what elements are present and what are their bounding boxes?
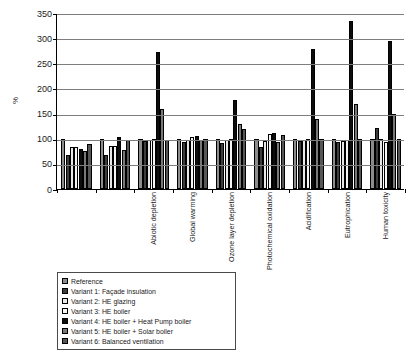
y-tick-label: 150 [22, 110, 52, 119]
bar [87, 144, 91, 189]
gridline [57, 64, 404, 65]
y-tick-label: 200 [22, 85, 52, 94]
legend-swatch-icon [62, 338, 68, 344]
legend-item[interactable]: Variant 5: HE boiler + Solar boiler [62, 326, 231, 336]
legend-swatch-icon [62, 308, 68, 314]
legend-item[interactable]: Variant 6: Balanced ventilation [62, 336, 231, 346]
bar-chart-figure: % 050100150200250300350 Abiotic depletio… [0, 0, 412, 354]
x-category-label: Photochemical oxidation [266, 192, 274, 270]
x-category-label: Acidification [305, 192, 313, 270]
x-tick-mark [405, 189, 406, 193]
legend-swatch-icon [62, 288, 68, 294]
y-axis-tick-labels: 050100150200250300350 [20, 0, 52, 190]
gridline [57, 165, 404, 166]
x-category-label: Eutrophication [344, 192, 352, 270]
bars-layer [57, 14, 404, 189]
plot-area: % 050100150200250300350 Abiotic depletio… [0, 0, 412, 270]
bar-group [328, 14, 367, 189]
bar-group [173, 14, 212, 189]
x-category-label: Human toxicity [382, 192, 390, 270]
legend-item[interactable]: Reference [62, 276, 231, 286]
y-tick-label: 350 [22, 10, 52, 19]
gridline [57, 39, 404, 40]
legend-label: Variant 1: Façade insulation [71, 287, 156, 296]
y-axis-label: % [11, 92, 20, 110]
x-category-label: Abiotic depletion [150, 192, 158, 270]
legend-swatch-icon [62, 328, 68, 334]
legend-item[interactable]: Variant 2: HE glazing [62, 296, 231, 306]
y-tick-label: 100 [22, 135, 52, 144]
bar-group [289, 14, 328, 189]
chart-legend: ReferenceVariant 1: Façade insulationVar… [57, 272, 236, 350]
legend-swatch-icon [62, 318, 68, 324]
y-tick-label: 300 [22, 35, 52, 44]
chart-axes [56, 14, 404, 190]
legend-swatch-icon [62, 298, 68, 304]
legend-label: Variant 4: HE boiler + Heat Pump boiler [71, 317, 191, 326]
bar-group [134, 14, 173, 189]
gridline [57, 115, 404, 116]
legend-item[interactable]: Variant 4: HE boiler + Heat Pump boiler [62, 316, 231, 326]
gridline [57, 89, 404, 90]
legend-label: Variant 5: HE boiler + Solar boiler [71, 327, 173, 336]
legend-item[interactable]: Variant 3: HE boiler [62, 306, 231, 316]
bar [242, 129, 246, 189]
x-category-label: Ozone layer depletion [228, 192, 236, 270]
y-tick-label: 0 [22, 186, 52, 195]
x-category-label: Global warming [189, 192, 197, 270]
legend-item[interactable]: Variant 1: Façade insulation [62, 286, 231, 296]
legend-label: Variant 3: HE boiler [71, 307, 130, 316]
bar-group [250, 14, 289, 189]
legend-label: Reference [71, 277, 103, 286]
bar-group [96, 14, 135, 189]
bar-group [57, 14, 96, 189]
gridline [57, 140, 404, 141]
bar-group [366, 14, 405, 189]
x-axis-category-labels: Abiotic depletionGlobal warmingOzone lay… [56, 192, 404, 270]
legend-label: Variant 2: HE glazing [71, 297, 135, 306]
y-tick-label: 250 [22, 60, 52, 69]
legend-label: Variant 6: Balanced ventilation [71, 337, 164, 346]
legend-swatch-icon [62, 278, 68, 284]
y-tick-label: 50 [22, 160, 52, 169]
gridline [57, 14, 404, 15]
bar [281, 135, 285, 189]
bar-group [212, 14, 251, 189]
